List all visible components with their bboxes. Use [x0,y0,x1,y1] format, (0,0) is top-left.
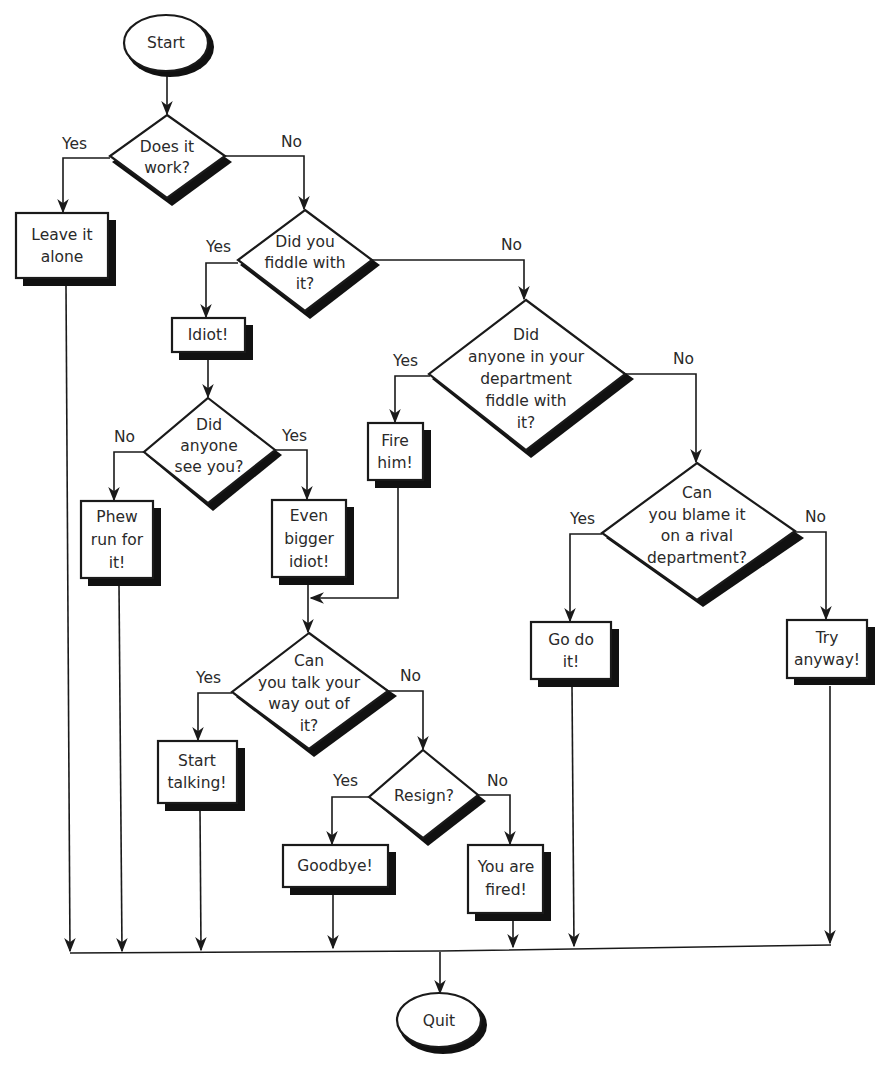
node-idiot: Idiot! [172,318,253,360]
svg-text:it?: it? [300,717,319,735]
svg-text:anyone in your: anyone in your [468,348,585,366]
svg-text:Leave it: Leave it [31,226,92,244]
edge-see-no [114,452,144,500]
label-blame-no: No [805,508,826,526]
node-start-text: Start [147,34,185,52]
svg-text:Quit: Quit [423,1012,455,1030]
edge-dept-yes [395,376,430,422]
svg-text:Does it: Does it [140,138,194,156]
svg-text:see you?: see you? [175,458,244,476]
edge-blame-no [795,532,826,619]
label-dept-yes: Yes [392,352,418,370]
svg-text:it?: it? [296,275,315,293]
svg-text:Can: Can [294,652,324,670]
flowchart: Yes No Yes No Yes No No Yes Yes No Yes N… [0,0,889,1067]
node-did-you-fiddle: Did you fiddle with it? [238,210,380,319]
svg-text:Goodbye!: Goodbye! [297,857,373,875]
svg-text:run for: run for [91,531,144,549]
label-see-no: No [114,428,135,446]
node-start: Start [124,15,214,77]
svg-text:talking!: talking! [167,774,226,792]
svg-text:Phew: Phew [96,508,138,526]
edge-leave-to-end [66,286,70,951]
svg-text:alone: alone [41,248,84,266]
svg-text:Did: Did [196,416,222,434]
edge-blame-yes [570,534,602,621]
label-resign-no: No [487,772,508,790]
edge-works-yes [63,158,110,212]
node-resign: Resign? [369,750,486,846]
svg-text:department?: department? [647,549,747,567]
svg-text:you talk your: you talk your [258,674,361,692]
svg-text:it!: it! [109,554,126,572]
node-phew: Phew run for it! [81,501,161,586]
svg-text:you blame it: you blame it [649,506,746,524]
svg-text:Start: Start [178,752,216,770]
svg-text:bigger: bigger [284,530,334,548]
edge-dept-no [625,374,696,462]
svg-text:Fire: Fire [381,432,409,450]
edge-talking-to-end [200,810,201,950]
svg-text:fiddle with: fiddle with [264,254,345,272]
svg-text:department: department [480,370,572,388]
node-even-bigger-idiot: Even bigger idiot! [272,500,354,585]
label-blame-yes: Yes [569,510,595,528]
svg-text:Idiot!: Idiot! [188,326,229,344]
label-fiddle-yes: Yes [205,238,231,256]
edge-fiddle-yes [206,263,238,317]
node-quit: Quit [397,993,487,1054]
edge-go-to-end [572,686,574,946]
label-talk-no: No [400,667,421,685]
edge-resign-yes [332,797,369,844]
node-can-you-blame: Can you blame it on a rival department? [602,463,804,607]
svg-text:fired!: fired! [485,881,526,899]
edge-works-no [225,156,304,209]
label-dept-no: No [673,350,694,368]
svg-text:it?: it? [517,414,536,432]
node-goodbye: Goodbye! [283,845,396,895]
label-talk-yes: Yes [195,669,221,687]
svg-text:Can: Can [682,484,712,502]
node-leave-it-alone: Leave it alone [16,213,116,286]
node-does-it-work: Does it work? [110,115,232,206]
node-did-anyone-department: Did anyone in your department fiddle wit… [429,300,634,458]
svg-text:Did: Did [513,326,539,344]
label-see-yes: Yes [281,427,307,445]
svg-text:Go do: Go do [548,631,594,649]
node-did-anyone-see: Did anyone see you? [144,398,282,511]
edge-phew-to-end [119,585,122,951]
svg-text:on a rival: on a rival [661,527,733,545]
svg-text:way out of: way out of [268,695,350,713]
label-fiddle-no: No [501,236,522,254]
label-works-yes: Yes [61,135,87,153]
node-start-talking: Start talking! [158,741,245,811]
node-try-anyway: Try anyway! [787,620,875,685]
node-go-do-it: Go do it! [531,622,619,687]
svg-text:anyway!: anyway! [794,651,860,669]
svg-text:anyone: anyone [180,437,237,455]
svg-text:Resign?: Resign? [394,787,454,805]
bottom-bus-line [70,945,831,953]
node-fire-him: Fire him! [368,423,431,488]
svg-text:Try: Try [815,629,839,647]
svg-text:work?: work? [144,159,190,177]
svg-text:idiot!: idiot! [289,553,329,571]
svg-text:him!: him! [377,454,412,472]
svg-text:You are: You are [477,858,535,876]
edge-fiddle-no [372,260,524,299]
node-can-you-talk: Can you talk your way out of it? [232,633,397,757]
svg-text:fiddle with: fiddle with [485,392,566,410]
label-works-no: No [281,133,302,151]
node-you-are-fired: You are fired! [468,845,551,921]
svg-text:it!: it! [563,653,580,671]
svg-text:Even: Even [290,507,328,525]
edge-talk-yes [198,693,232,740]
svg-text:Did you: Did you [275,233,335,251]
label-resign-yes: Yes [332,772,358,790]
edge-talk-no [388,691,423,749]
